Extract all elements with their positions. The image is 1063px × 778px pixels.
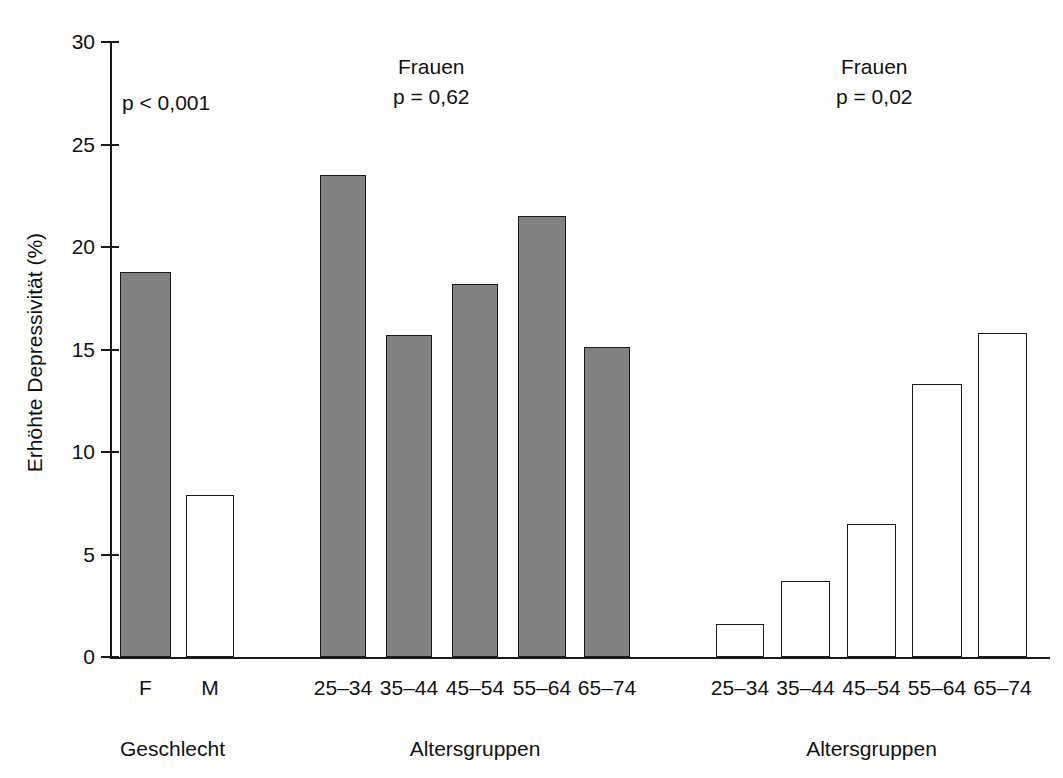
y-axis-tick-label: 30 — [35, 31, 95, 52]
annotation-p-value: p = 0,62 — [393, 82, 469, 112]
chart-annotation: Frauenp = 0,62 — [393, 52, 469, 112]
y-axis-tick — [101, 144, 119, 146]
y-axis-tick-label-wrap: 5 — [0, 544, 95, 565]
x-axis-category-label: M — [164, 676, 256, 700]
x-axis-group-label: Altersgruppen — [320, 737, 630, 761]
bar — [386, 335, 432, 657]
y-axis-tick-label: 0 — [35, 646, 95, 667]
x-axis-category-label: 65–74 — [956, 676, 1049, 700]
bar — [120, 272, 171, 657]
y-axis-tick — [101, 451, 119, 453]
x-axis-line — [110, 657, 1050, 659]
y-axis-tick-label-wrap: 15 — [0, 339, 95, 360]
y-axis-tick — [101, 656, 119, 658]
y-axis-tick-label-wrap: 30 — [0, 31, 95, 52]
y-axis-tick — [101, 41, 119, 43]
bar — [978, 333, 1027, 657]
chart-annotation: Frauenp = 0,02 — [836, 52, 912, 112]
annotation-title: Frauen — [393, 52, 469, 82]
y-axis-tick-label-wrap: 10 — [0, 441, 95, 462]
x-axis-group-label: Geschlecht — [110, 737, 235, 761]
bar — [320, 175, 366, 657]
bar — [186, 495, 234, 657]
y-axis-tick — [101, 554, 119, 556]
bar — [518, 216, 566, 657]
y-axis-tick — [101, 349, 119, 351]
y-axis-tick — [101, 246, 119, 248]
chart-figure: 051015202530 Erhöhte Depressivität (%) F… — [0, 0, 1063, 778]
y-axis-tick-label-wrap: 20 — [0, 236, 95, 257]
y-axis-tick-label: 5 — [35, 544, 95, 565]
x-axis-group-label: Altersgruppen — [716, 737, 1027, 761]
bar — [847, 524, 896, 657]
bar — [452, 284, 498, 657]
bar — [716, 624, 764, 657]
y-axis-title: Erhöhte Depressivität (%) — [24, 203, 45, 503]
bar — [912, 384, 962, 657]
y-axis-tick-label-wrap: 25 — [0, 134, 95, 155]
annotation-p-value: p = 0,02 — [836, 82, 912, 112]
y-axis-tick-label-wrap: 0 — [0, 646, 95, 667]
annotation-title: Frauen — [836, 52, 912, 82]
x-axis-category-label: 65–74 — [562, 676, 652, 700]
bar — [781, 581, 830, 657]
annotation-p-value: p < 0,001 — [122, 88, 210, 118]
chart-annotation: p < 0,001 — [122, 88, 210, 118]
y-axis-tick-label: 25 — [35, 134, 95, 155]
bar — [584, 347, 630, 657]
